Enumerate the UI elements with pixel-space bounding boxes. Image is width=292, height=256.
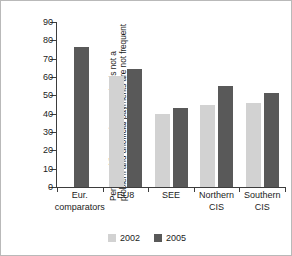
- y-tick-label: 40: [43, 109, 53, 119]
- bar-2005-eu8: [127, 69, 142, 187]
- y-tick-label: 10: [43, 164, 53, 174]
- plot-area: 0102030405060708090: [57, 22, 285, 187]
- x-axis-line: [49, 187, 285, 188]
- legend-label-2002: 2002: [120, 233, 140, 243]
- legend-swatch-2002: [108, 234, 116, 242]
- y-tick-label: 20: [43, 145, 53, 155]
- bar-2005-see: [173, 108, 188, 187]
- y-tick-label: 30: [43, 127, 53, 137]
- x-category-label-line: comparators: [49, 202, 111, 214]
- chart-figure: Percent of firms saying corruption is no…: [0, 0, 292, 256]
- x-category-label-line: Southern: [231, 190, 292, 202]
- y-tick-label: 80: [43, 35, 53, 45]
- x-category-label-line: CIS: [231, 202, 292, 214]
- bar-2002-eu8: [109, 76, 124, 187]
- legend-entry-2002: 2002: [108, 233, 140, 243]
- y-tick-label: 70: [43, 54, 53, 64]
- legend-entry-2005: 2005: [154, 233, 186, 243]
- bar-2005-eur-comparators: [74, 47, 89, 187]
- legend-label-2005: 2005: [166, 233, 186, 243]
- bar-2005-northern-cis: [218, 86, 233, 187]
- y-tick-label: 60: [43, 72, 53, 82]
- bar-2002-southern-cis: [246, 103, 261, 187]
- y-tick-label: 50: [43, 90, 53, 100]
- legend-swatch-2005: [154, 234, 162, 242]
- bar-2002-see: [155, 114, 170, 187]
- bar-2005-southern-cis: [264, 93, 279, 187]
- y-axis-label: Percent of firms saying corruption is no…: [1, 1, 37, 201]
- bar-series-group: [57, 22, 285, 187]
- x-category-label: SouthernCIS: [231, 190, 292, 213]
- x-axis-category-labels: Eur.comparatorsEU8SEENorthernCISSouthern…: [57, 190, 285, 224]
- y-tick-label: 90: [43, 17, 53, 27]
- chart-legend: 20022005: [1, 233, 292, 243]
- bar-2002-northern-cis: [200, 105, 215, 188]
